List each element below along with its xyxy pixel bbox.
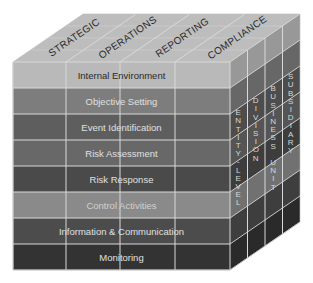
row-label-event-identification: Event Identification [81, 122, 161, 133]
row-label-information-communication: Information & Communication [59, 226, 184, 237]
row-label-monitoring: Monitoring [99, 252, 143, 263]
row-label-internal-environment: Internal Environment [78, 70, 166, 81]
coso-cube-diagram: STRATEGICOPERATIONSREPORTINGCOMPLIANCEEN… [0, 0, 313, 283]
cube-svg: STRATEGICOPERATIONSREPORTINGCOMPLIANCEEN… [0, 0, 313, 283]
row-label-control-activities: Control Activities [86, 200, 156, 211]
side-label-entity-level: ENTITY-LEVEL [235, 108, 242, 207]
row-label-risk-response: Risk Response [90, 174, 154, 185]
row-label-objective-setting: Objective Setting [86, 96, 158, 107]
row-label-risk-assessment: Risk Assessment [85, 148, 158, 159]
side-label-subsidiary: SUBSIDIARY [288, 72, 295, 155]
